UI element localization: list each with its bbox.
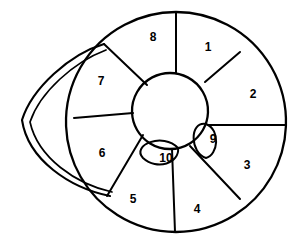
segment-label-5: 5 [130,192,137,206]
segment-label-9: 9 [210,132,217,146]
segment-label-6: 6 [99,146,106,160]
segment-label-4: 4 [194,202,201,216]
segment-label-10: 10 [159,151,173,165]
segment-label-1: 1 [205,40,212,54]
segment-label-8: 8 [150,30,157,44]
diagram-root: 1 2 3 4 5 6 7 8 9 10 [0,0,301,247]
segmented-circle-diagram: 1 2 3 4 5 6 7 8 9 10 [0,0,301,247]
segment-label-7: 7 [98,74,105,88]
segment-label-2: 2 [250,87,257,101]
segment-label-3: 3 [244,158,251,172]
